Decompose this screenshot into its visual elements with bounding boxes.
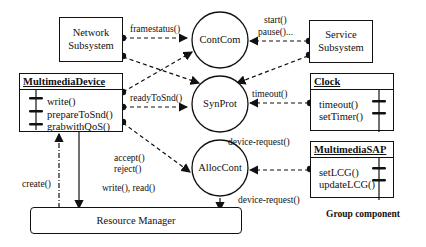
label-framestatus: framestatus() <box>130 25 180 35</box>
group-component-caption: Group component <box>326 209 400 219</box>
multimedia-sap-class: MultimediaSAP setLCG() updateLCG() <box>310 141 394 198</box>
multimedia-device-title: MultimediaDevice <box>20 74 122 90</box>
clock-title: Clock <box>311 74 393 90</box>
label-timeout: timeout() <box>252 90 287 100</box>
alloccont-label: AllocCont <box>192 163 248 174</box>
method-prepare-to-snd: prepareToSnd() <box>47 109 113 121</box>
clock-class: Clock timeout() setTimer() <box>310 73 394 131</box>
label-start: start() <box>264 16 287 26</box>
label-reject: reject() <box>114 165 141 175</box>
method-write: write() <box>47 96 76 108</box>
method-update-lcg: updateLCG() <box>319 179 375 191</box>
label-device-request-2: device-request() <box>238 196 300 206</box>
label-accept: accept() <box>114 154 145 164</box>
resource-manager-box: Resource Manager <box>30 207 242 234</box>
lifeline-icon <box>369 90 389 134</box>
multimedia-sap-title: MultimediaSAP <box>311 142 393 158</box>
resource-manager-label: Resource Manager <box>96 215 175 226</box>
label-create: create() <box>22 180 51 190</box>
network-subsystem-box: Network Subsystem <box>59 17 123 62</box>
synprot-label: SynProt <box>192 99 248 110</box>
network-subsystem-label-1: Network <box>73 27 110 39</box>
label-pause: pause()... <box>258 28 293 38</box>
method-set-lcg: setLCG() <box>319 167 359 179</box>
service-subsystem-label-2: Subsystem <box>318 42 364 54</box>
network-subsystem-label-2: Subsystem <box>68 40 114 52</box>
method-timeout: timeout() <box>319 99 358 111</box>
label-write-read: write(), read() <box>102 184 155 194</box>
service-subsystem-box: Service Subsystem <box>309 20 373 63</box>
method-grab-with-qos: grabwithQoS() <box>47 121 110 133</box>
label-device-request-1: device-request() <box>228 138 290 148</box>
multimedia-device-class: MultimediaDevice write() prepareToSnd() … <box>19 73 123 132</box>
label-ready-to-snd: readyToSnd() <box>130 94 182 104</box>
service-subsystem-label-1: Service <box>325 29 357 41</box>
contcom-label: ContCom <box>192 35 248 46</box>
method-set-timer: setTimer() <box>319 111 363 123</box>
